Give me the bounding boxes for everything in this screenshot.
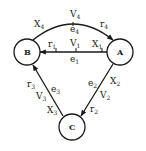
edge-e4-r-label: r4 <box>100 19 108 30</box>
edge-e1-v-label: V1 <box>69 38 80 49</box>
edge-e3-v-label: V3 <box>35 91 47 102</box>
edge-e3-r-label: r3 <box>27 79 35 90</box>
edge-e2-r-label: r2 <box>90 104 98 115</box>
edge-e4-name: e4 <box>70 24 79 35</box>
edge-e2-name: e2 <box>88 78 97 89</box>
node-a-label: A <box>116 47 124 57</box>
edge-e3-name: e3 <box>51 84 60 95</box>
node-b-label: B <box>24 47 31 57</box>
edge-e4-v-label: V4 <box>69 9 81 20</box>
edge-e4-x-label: X4 <box>34 19 44 30</box>
edge-e2-v-label: V2 <box>99 90 111 101</box>
edge-e1-name: e1 <box>70 54 79 65</box>
edge-e1-x-label: X1 <box>92 39 102 50</box>
node-c: C <box>59 114 85 140</box>
edge-e1-r-label: r1 <box>48 39 56 50</box>
node-a: A <box>107 39 133 65</box>
edge-e2-x-label: X2 <box>110 76 120 87</box>
node-c-label: C <box>69 122 75 132</box>
edge-e3-x-label: X3 <box>47 105 57 116</box>
node-b: B <box>14 39 40 65</box>
graph-diagram: B A C X4 V4 r4 e4 r1 V1 X1 e1 r3 V3 X3 e… <box>0 0 146 151</box>
